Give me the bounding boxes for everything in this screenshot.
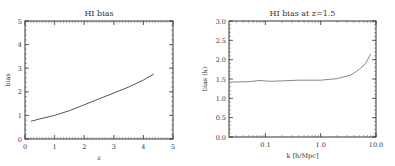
x-tick-label: 4 [141, 143, 145, 151]
y-tick-label: 1 [18, 112, 22, 120]
x-tick-label: 0.1 [260, 141, 270, 149]
x-tick-label: 1 [53, 143, 57, 151]
chart-title: HI bias [84, 9, 113, 18]
x-tick-label: 10.0 [369, 141, 383, 149]
y-tick-label: 0.0 [216, 134, 226, 142]
data-line [229, 54, 371, 82]
y-tick-label: 1.0 [216, 95, 226, 103]
x-tick-label: 0 [23, 143, 27, 151]
y-tick-label: 4 [18, 41, 22, 49]
plot-frame [229, 21, 376, 137]
left-chart-svg: HI bias012345012345zbias [0, 0, 195, 166]
y-tick-label: 5 [18, 18, 22, 26]
y-tick-label: 0.5 [216, 114, 226, 122]
left-chart: HI bias012345012345zbias [0, 0, 195, 166]
y-tick-label: 1.5 [216, 76, 226, 84]
x-tick-label: 1.0 [316, 141, 326, 149]
x-axis-label: z [97, 154, 101, 162]
right-chart: HI bias at z=1.50.00.51.01.52.02.53.00.1… [195, 0, 395, 166]
x-tick-label: 5 [171, 143, 175, 151]
right-chart-svg: HI bias at z=1.50.00.51.01.52.02.53.00.1… [195, 0, 395, 166]
plot-frame [25, 21, 173, 139]
chart-title: HI bias at z=1.5 [270, 9, 336, 18]
x-tick-label: 2 [82, 143, 86, 151]
y-tick-label: 2.0 [216, 56, 226, 64]
y-axis-label: bias [4, 73, 12, 86]
x-tick-label: 3 [112, 143, 116, 151]
y-tick-label: 3.0 [216, 18, 226, 26]
data-line [31, 74, 154, 121]
y-axis-label: bias (k) [201, 66, 209, 91]
y-tick-label: 3 [18, 65, 22, 73]
y-tick-label: 2 [18, 88, 22, 96]
x-axis-label: k [h/Mpc] [287, 152, 319, 160]
y-tick-label: 2.5 [216, 37, 226, 45]
y-tick-label: 0 [18, 136, 22, 144]
